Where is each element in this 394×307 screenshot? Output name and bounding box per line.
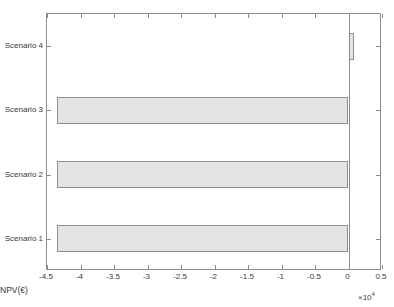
bar bbox=[57, 97, 348, 124]
x-axis-tick bbox=[181, 265, 182, 269]
x-axis-tick bbox=[248, 265, 249, 269]
y-axis-tick bbox=[376, 46, 380, 47]
plot-area bbox=[46, 13, 381, 270]
x-axis-tick bbox=[148, 265, 149, 269]
x-axis-tick-label: -2.5 bbox=[173, 272, 187, 281]
y-axis-tick-label: Scenario 3 bbox=[5, 105, 43, 114]
y-axis-tick-label: Scenario 4 bbox=[5, 41, 43, 50]
x-axis-tick bbox=[315, 14, 316, 18]
x-axis-tick bbox=[282, 14, 283, 18]
x-axis-tick-label: -3 bbox=[143, 272, 150, 281]
exponent-power: 4 bbox=[372, 291, 375, 297]
x-axis-tick bbox=[47, 14, 48, 18]
x-axis-tick bbox=[248, 14, 249, 18]
x-axis-tick-label: -2 bbox=[210, 272, 217, 281]
x-axis-tick-label: -4 bbox=[76, 272, 83, 281]
x-axis-tick bbox=[81, 265, 82, 269]
y-axis-tick-label: Scenario 1 bbox=[5, 233, 43, 242]
figure: Scenario 1Scenario 2Scenario 3Scenario 4… bbox=[0, 0, 394, 307]
x-axis-tick bbox=[349, 14, 350, 18]
exponent-base: ×10 bbox=[358, 293, 372, 302]
x-axis-tick bbox=[81, 14, 82, 18]
y-axis-tick bbox=[376, 239, 380, 240]
x-axis-tick bbox=[114, 265, 115, 269]
x-axis-tick bbox=[215, 14, 216, 18]
x-axis-tick bbox=[148, 14, 149, 18]
x-axis-tick bbox=[382, 14, 383, 18]
x-axis-tick-label: 0.5 bbox=[375, 272, 386, 281]
y-axis-tick bbox=[47, 175, 51, 176]
x-axis-tick-label: -1 bbox=[277, 272, 284, 281]
bar bbox=[57, 161, 348, 188]
x-axis-tick bbox=[114, 14, 115, 18]
y-axis-tick-label: Scenario 2 bbox=[5, 169, 43, 178]
x-axis-tick bbox=[382, 265, 383, 269]
y-axis-tick bbox=[47, 239, 51, 240]
y-axis-tick bbox=[47, 46, 51, 47]
x-axis-title-text: NPV(€) bbox=[0, 285, 28, 295]
bar bbox=[57, 225, 348, 252]
x-axis-tick bbox=[349, 265, 350, 269]
x-axis-tick bbox=[181, 14, 182, 18]
y-axis-tick bbox=[376, 110, 380, 111]
x-axis-tick bbox=[47, 265, 48, 269]
x-axis-tick-label: 0 bbox=[345, 272, 349, 281]
x-axis-tick bbox=[315, 265, 316, 269]
x-axis-tick-label: -3.5 bbox=[106, 272, 120, 281]
y-axis-tick bbox=[376, 175, 380, 176]
x-axis-title: NPV(€) bbox=[0, 285, 394, 295]
x-axis-tick bbox=[215, 265, 216, 269]
axis-exponent-label: ×104 bbox=[358, 291, 375, 302]
x-axis-tick-label: -4.5 bbox=[39, 272, 53, 281]
y-axis-tick bbox=[47, 110, 51, 111]
x-axis-tick-label: -0.5 bbox=[307, 272, 321, 281]
x-axis-tick bbox=[282, 265, 283, 269]
bar bbox=[349, 33, 354, 60]
x-axis-tick-label: -1.5 bbox=[240, 272, 254, 281]
